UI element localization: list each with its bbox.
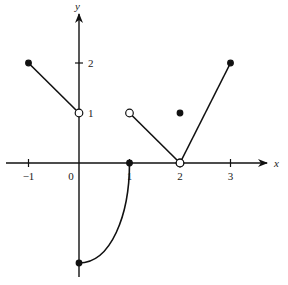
y-axis-label: y — [74, 0, 80, 12]
open-point-marker — [126, 109, 134, 117]
y-tick-label: 1 — [88, 107, 94, 119]
segment-4 — [180, 63, 231, 163]
closed-point-marker — [127, 160, 133, 166]
open-point-marker — [176, 159, 184, 167]
x-tick-label: 3 — [228, 170, 234, 182]
closed-point-marker — [228, 60, 234, 66]
segment-1 — [29, 63, 80, 113]
x-tick-label: 2 — [177, 170, 183, 182]
closed-point-marker — [76, 260, 82, 266]
y-tick-label: 2 — [88, 57, 94, 69]
segment-3 — [130, 113, 181, 163]
closed-point-marker — [26, 60, 32, 66]
x-tick-label: 0 — [68, 170, 74, 182]
curve-2 — [79, 163, 130, 263]
closed-point-marker — [177, 110, 183, 116]
piecewise-function-graph: x y −10123 12 — [0, 0, 288, 285]
axes: x y — [6, 0, 279, 277]
x-tick-label: −1 — [23, 170, 35, 182]
open-point-marker — [75, 109, 83, 117]
x-axis-label: x — [273, 157, 279, 169]
